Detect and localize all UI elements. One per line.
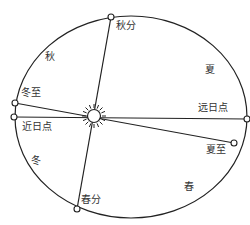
autumn-equinox-label: 秋分 [116,21,136,31]
apsis-line [14,117,247,119]
perihelion-marker [11,114,17,120]
season-winter-label: 冬 [31,156,41,166]
summer-solstice-label: 夏至 [206,145,226,155]
autumn-equinox-marker [108,14,114,20]
spring-equinox-marker [74,206,80,212]
perihelion-label: 近日点 [22,122,52,132]
aphelion-marker [244,116,250,122]
season-summer-label: 夏 [205,65,215,75]
season-spring-label: 春 [184,182,194,192]
winter-solstice-marker [12,100,18,106]
earth-orbit-diagram: 冬至 近日点 秋分 远日点 夏至 春分 秋 夏 冬 春 [0,0,250,225]
summer-solstice-marker [231,140,237,146]
aphelion-label: 远日点 [198,103,228,113]
season-autumn-label: 秋 [45,52,55,62]
winter-solstice-label: 冬至 [21,88,41,98]
spring-equinox-label: 春分 [81,195,101,205]
sun-icon [82,104,106,128]
